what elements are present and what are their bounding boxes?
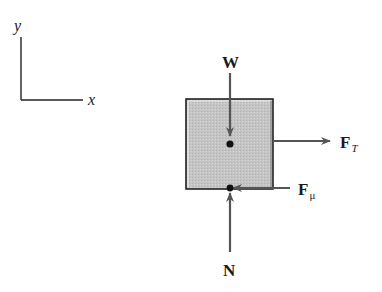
- tension-subscript: T: [351, 142, 357, 154]
- tension-symbol: F: [340, 133, 350, 152]
- weight-label: W: [222, 54, 239, 71]
- normal-label: N: [223, 262, 235, 279]
- friction-subscript: μ: [309, 189, 315, 201]
- contact-point: [227, 185, 234, 192]
- friction-label: Fμ: [298, 181, 315, 198]
- diagram-canvas: [0, 0, 382, 292]
- y-axis-label: y: [14, 18, 21, 34]
- coordinate-axes: [21, 37, 83, 100]
- center-of-mass-point: [226, 140, 233, 147]
- tension-label: FT: [340, 134, 358, 151]
- x-axis-label: x: [88, 92, 95, 108]
- friction-symbol: F: [298, 180, 308, 199]
